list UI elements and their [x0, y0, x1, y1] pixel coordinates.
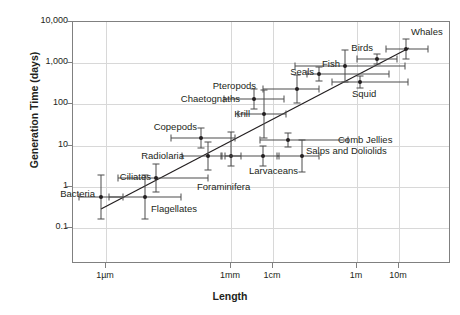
- y-tick-label: 0.1: [0, 222, 68, 231]
- error-bar-horizontal: [260, 140, 348, 141]
- data-point: [206, 154, 210, 158]
- y-tick-label: 1: [0, 181, 68, 190]
- error-bar-cap: [316, 81, 323, 82]
- error-bar-horizontal: [171, 138, 235, 139]
- error-bar-cap: [205, 170, 212, 171]
- error-bar-cap: [374, 64, 381, 65]
- x-tick-label: 10m: [389, 270, 407, 280]
- data-point-label: Krill: [234, 109, 250, 119]
- error-bar-cap: [408, 79, 409, 86]
- data-point: [143, 195, 147, 199]
- x-tick-label: 1µm: [96, 270, 114, 280]
- error-bar-cap: [295, 63, 296, 70]
- error-bar-horizontal: [295, 66, 405, 67]
- y-axis-title: Generation Time (days): [28, 50, 40, 170]
- error-bar-cap: [142, 219, 149, 220]
- data-point: [300, 154, 304, 158]
- error-bar-cap: [389, 71, 390, 78]
- data-point: [286, 138, 290, 142]
- error-bar-cap: [277, 153, 278, 160]
- error-bar-cap: [235, 135, 236, 142]
- error-bar-cap: [386, 46, 387, 53]
- data-point: [295, 87, 299, 91]
- data-point-label: Foraminifera: [197, 182, 250, 192]
- error-bar-cap: [118, 175, 119, 182]
- error-bar-cap: [319, 86, 320, 93]
- data-point-label: Flagellates: [151, 204, 197, 214]
- y-tick-label: 1,000: [0, 57, 68, 66]
- data-point-label: Larvaceans: [249, 166, 298, 176]
- data-point-label: Whales: [411, 27, 443, 37]
- error-bar-cap: [374, 54, 381, 55]
- error-bar-cap: [153, 164, 160, 165]
- data-point: [99, 195, 103, 199]
- data-point: [317, 72, 321, 76]
- error-bar-cap: [332, 79, 333, 86]
- error-bar-cap: [284, 96, 285, 103]
- data-point: [404, 47, 408, 51]
- error-bar-horizontal: [332, 82, 408, 83]
- data-point: [358, 80, 362, 84]
- x-tick-label: 1cm: [263, 270, 280, 280]
- data-point-label: Birds: [351, 43, 373, 53]
- data-point: [343, 64, 347, 68]
- error-bar-cap: [221, 153, 222, 160]
- error-bar-cap: [403, 39, 410, 40]
- error-bar-cap: [263, 86, 264, 93]
- data-point-label: Salps and Doliolids: [306, 146, 387, 156]
- data-point-label: Comb Jellies: [338, 135, 392, 145]
- error-bar-cap: [299, 172, 306, 173]
- data-point-label: Bacteria: [60, 189, 95, 199]
- error-bar-cap: [225, 153, 226, 160]
- error-bar-cap: [198, 128, 205, 129]
- error-bar-cap: [205, 142, 212, 143]
- error-bar-cap: [285, 147, 292, 148]
- data-point: [261, 154, 265, 158]
- error-bar-cap: [109, 194, 110, 201]
- data-point-label: Pteropods: [213, 81, 256, 91]
- error-bar-cap: [261, 138, 268, 139]
- data-point-label: Radiolaria: [141, 151, 184, 161]
- error-bar-cap: [405, 63, 406, 70]
- error-bar-cap: [251, 109, 258, 110]
- error-bar-cap: [153, 192, 160, 193]
- error-bar-cap: [181, 194, 182, 201]
- x-axis-title: Length: [0, 290, 460, 302]
- x-tick-label: 1mm: [220, 270, 240, 280]
- data-point: [199, 136, 203, 140]
- error-bar-cap: [403, 59, 410, 60]
- error-bar-cap: [428, 46, 429, 53]
- error-bar-cap: [342, 50, 349, 51]
- y-tick-label: 10: [0, 140, 68, 149]
- data-point: [252, 97, 256, 101]
- error-bar-cap: [98, 175, 105, 176]
- error-bar-horizontal: [225, 156, 279, 157]
- error-bar-cap: [98, 219, 105, 220]
- error-bar-cap: [198, 148, 205, 149]
- data-point-label: Fish: [322, 59, 340, 69]
- data-point: [262, 112, 266, 116]
- data-point: [375, 57, 379, 61]
- data-point-label: Chaetognaths: [181, 94, 240, 104]
- data-point: [154, 176, 158, 180]
- error-bar-cap: [286, 111, 287, 118]
- error-bar-cap: [357, 76, 364, 77]
- data-point-label: Ciliates: [120, 172, 151, 182]
- error-bar-cap: [171, 135, 172, 142]
- plot-area: BacteriaFlagellatesCiliatesRadiolariaFor…: [72, 21, 450, 263]
- data-point-label: Copepods: [154, 122, 197, 132]
- y-tick-label: 10,000: [0, 16, 68, 25]
- error-bar-cap: [228, 166, 235, 167]
- error-bar-cap: [397, 56, 398, 63]
- error-bar-horizontal: [182, 156, 222, 157]
- error-bar-cap: [294, 103, 301, 104]
- y-tick-label: 100: [0, 98, 68, 107]
- chart-figure: Generation Time (days) 10,0001,000100101…: [0, 0, 460, 315]
- error-bar-cap: [260, 146, 267, 147]
- error-bar-cap: [228, 132, 235, 133]
- error-bar-horizontal: [263, 89, 319, 90]
- x-tick-label: 1m: [350, 270, 363, 280]
- data-point-label: Squid: [352, 89, 376, 99]
- error-bar-cap: [285, 133, 292, 134]
- error-bar-cap: [357, 56, 358, 63]
